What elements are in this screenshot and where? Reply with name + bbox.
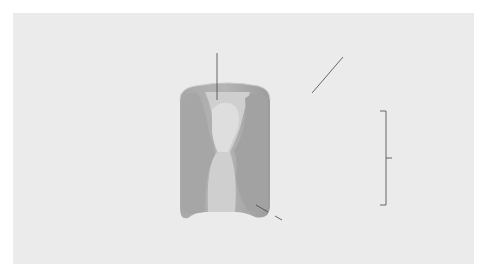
membrane-diagram [0, 0, 490, 278]
protein-leader-line-tick [275, 216, 282, 220]
plasma-membrane-bracket [380, 111, 386, 205]
channel-protein [180, 83, 270, 218]
cell-surface-leader-line [312, 57, 343, 93]
